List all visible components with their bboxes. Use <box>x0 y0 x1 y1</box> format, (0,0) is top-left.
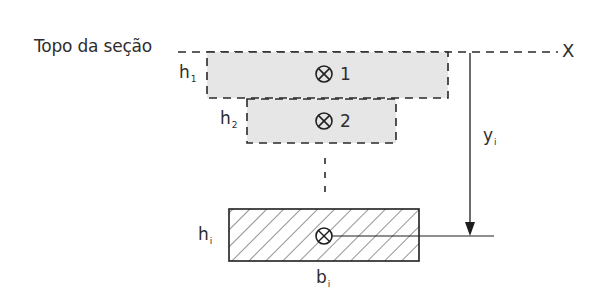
distance-label-yi: yi <box>483 127 497 147</box>
width-label-i: bi <box>316 269 330 289</box>
element-1 <box>207 52 448 98</box>
element-number-1: 1 <box>340 66 351 83</box>
height-label-i: hi <box>198 226 212 246</box>
distance-arrow-icon <box>465 53 475 236</box>
element-2 <box>247 99 396 143</box>
height-label-1: h1 <box>179 64 197 84</box>
centroid-icon-i <box>316 228 332 244</box>
height-label-2: h2 <box>220 110 238 130</box>
element-number-2: 2 <box>340 113 351 130</box>
x-axis-label: X <box>562 42 574 60</box>
top-of-section-label: Topo da seção <box>34 38 152 55</box>
